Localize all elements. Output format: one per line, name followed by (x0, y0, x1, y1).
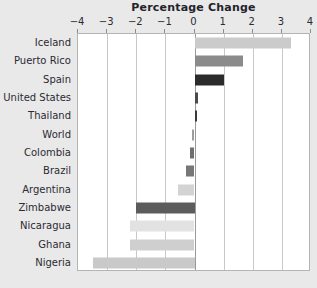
category-label: Colombia (24, 147, 71, 158)
category-label: Nigeria (35, 256, 71, 267)
category-label: World (42, 128, 71, 139)
bar-row (78, 71, 309, 89)
x-axis-tick-labels: −4−3−2−101234 (77, 16, 310, 29)
bar-row (78, 52, 309, 70)
bar-row (78, 235, 309, 253)
bar (195, 111, 198, 122)
bar-row (78, 217, 309, 235)
category-label: Iceland (35, 37, 71, 48)
category-label: Spain (43, 73, 71, 84)
category-label: Brazil (43, 165, 71, 176)
bar (93, 257, 195, 268)
bar-row (78, 254, 309, 272)
x-tick-label: −1 (157, 16, 172, 27)
x-tick-label: 4 (307, 16, 313, 27)
y-axis-category-labels: IcelandPuerto RicoSpainUnited StatesThai… (0, 33, 74, 271)
x-tick-label: 1 (219, 16, 225, 27)
plot-area (77, 33, 310, 271)
x-tick-label: 3 (278, 16, 284, 27)
x-tick-label: −3 (99, 16, 114, 27)
bar (130, 239, 194, 250)
bar (195, 56, 243, 67)
bar-row (78, 107, 309, 125)
category-label: Thailand (28, 110, 71, 121)
x-tick-mark (310, 29, 311, 33)
category-label: Puerto Rico (14, 55, 71, 66)
bar (186, 166, 195, 177)
bar (130, 221, 194, 232)
percentage-change-bar-chart: Percentage Change −4−3−2−101234 IcelandP… (0, 0, 317, 288)
bar-row (78, 126, 309, 144)
category-label: Nicaragua (20, 220, 71, 231)
category-label: Argentina (22, 183, 71, 194)
bar (178, 184, 194, 195)
bar (195, 38, 291, 49)
x-tick-label: 0 (190, 16, 196, 27)
bar-row (78, 144, 309, 162)
bar (190, 147, 194, 158)
x-tick-label: −4 (70, 16, 85, 27)
bar (136, 202, 194, 213)
x-tick-label: 2 (249, 16, 255, 27)
bar-row (78, 199, 309, 217)
chart-title: Percentage Change (77, 1, 310, 14)
bars-layer (78, 34, 309, 270)
bar (195, 74, 224, 85)
category-label: Zimbabwe (18, 201, 71, 212)
bar-row (78, 180, 309, 198)
category-label: Ghana (38, 238, 71, 249)
bar-row (78, 162, 309, 180)
bar (195, 93, 198, 104)
bar (192, 129, 195, 140)
category-label: United States (3, 92, 71, 103)
bar-row (78, 89, 309, 107)
x-tick-label: −2 (128, 16, 143, 27)
bar-row (78, 34, 309, 52)
